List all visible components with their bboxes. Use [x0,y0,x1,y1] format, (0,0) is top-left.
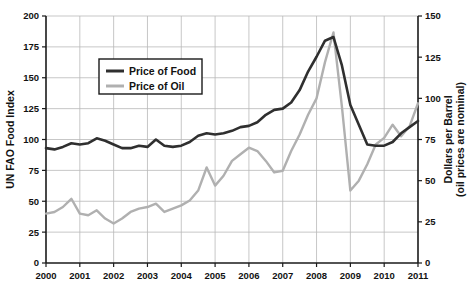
x-axis-tick-label: 2010 [374,270,395,281]
y-axis-right-tick-label: 150 [425,10,441,21]
y-axis-right-tick-label: 125 [425,52,442,63]
y-axis-left-tick-label: 50 [28,196,39,207]
x-axis-tick-label: 2000 [35,270,56,281]
y-axis-left-tick-label: 100 [23,134,39,145]
legend-label-price-of-oil: Price of Oil [129,80,185,92]
y-axis-right-title: Dollars per Barrel [442,95,454,183]
y-axis-left-tick-label: 125 [23,103,40,114]
y-axis-left-tick-label: 200 [23,10,39,21]
y-axis-right-tick-label: 75 [425,134,436,145]
chart-container: 0255075100125150175200025507510012515020… [0,0,473,290]
x-axis-tick-label: 2004 [171,270,193,281]
food-oil-price-line-chart: 0255075100125150175200025507510012515020… [0,0,473,290]
y-axis-left-title: UN FAO Food Index [4,90,16,189]
y-axis-right-tick-label: 25 [425,216,436,227]
y-axis-right-subtitle: (oil prices are nominal) [454,82,466,197]
x-axis-tick-label: 2009 [340,270,361,281]
x-axis-tick-label: 2002 [103,270,124,281]
x-axis-tick-label: 2008 [306,270,327,281]
y-axis-left-tick-label: 75 [28,165,39,176]
legend-label-price-of-food: Price of Food [129,65,196,77]
y-axis-right-tick-label: 0 [425,257,430,268]
y-axis-right-tick-label: 50 [425,175,436,186]
y-axis-left-tick-label: 0 [34,257,39,268]
x-axis-tick-label: 2011 [408,270,429,281]
y-axis-left-tick-label: 150 [23,72,39,83]
x-axis-tick-label: 2001 [69,270,91,281]
x-axis-tick-label: 2005 [205,270,227,281]
x-axis-tick-label: 2003 [137,270,158,281]
x-axis-tick-label: 2007 [272,270,293,281]
chart-legend: Price of FoodPrice of Oil [99,59,202,94]
y-axis-left-tick-label: 175 [23,41,40,52]
x-axis-tick-label: 2006 [238,270,259,281]
y-axis-left-tick-label: 25 [28,227,39,238]
y-axis-right-tick-label: 100 [425,93,441,104]
